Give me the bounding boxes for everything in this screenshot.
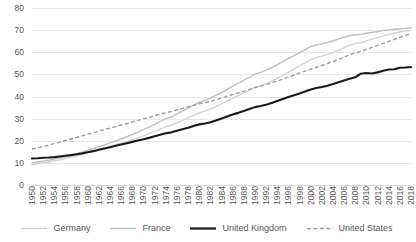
y-axis-tick-label: 80 <box>15 4 24 13</box>
y-axis-tick-label: 40 <box>15 92 24 101</box>
x-axis-tick-label: 1960 <box>84 186 93 205</box>
x-axis-tick-label: 1984 <box>218 186 227 205</box>
x-axis-tick-label: 1982 <box>206 186 215 205</box>
x-axis-tick-label: 1956 <box>61 186 70 205</box>
y-axis-tick-label: 10 <box>15 159 24 168</box>
x-axis-tick-label: 2016 <box>396 186 405 205</box>
x-axis-tick-label: 2010 <box>362 186 371 205</box>
legend-label-uk: United Kingdom <box>222 224 286 233</box>
plot-area <box>32 8 411 185</box>
x-axis-tick-label: 1990 <box>251 186 260 205</box>
legend-swatch-us <box>307 224 333 233</box>
x-axis-tick-label: 2006 <box>340 186 349 205</box>
x-axis-tick-label: 1966 <box>117 186 126 205</box>
x-axis-tick-label: 1954 <box>50 186 59 205</box>
series-line-france <box>32 28 411 163</box>
x-axis-tick-label: 1976 <box>173 186 182 205</box>
legend-item-france[interactable]: France <box>110 224 170 233</box>
series-line-united-states <box>32 34 411 150</box>
legend-label-france: France <box>142 224 170 233</box>
x-axis-tick-label: 1978 <box>184 186 193 205</box>
x-axis-tick-label: 1986 <box>229 186 238 205</box>
x-axis-tick-label: 2004 <box>329 186 338 205</box>
x-axis-tick-label: 1968 <box>128 186 137 205</box>
x-axis-tick-label: 1958 <box>73 186 82 205</box>
legend-item-germany[interactable]: Germany <box>21 224 90 233</box>
x-axis-tick-label: 2000 <box>307 186 316 205</box>
legend-item-uk[interactable]: United Kingdom <box>190 224 286 233</box>
x-axis-labels: 1950195219541956195819601962196419661968… <box>32 186 411 216</box>
legend-item-us[interactable]: United States <box>307 224 393 233</box>
y-axis-tick-label: 70 <box>15 26 24 35</box>
x-axis-tick-label: 1996 <box>284 186 293 205</box>
series-line-united-kingdom <box>32 67 411 158</box>
y-axis-tick-label: 30 <box>15 114 24 123</box>
x-axis-tick-label: 1980 <box>195 186 204 205</box>
series-line-germany <box>32 30 411 164</box>
x-axis-tick-label: 1964 <box>106 186 115 205</box>
x-axis-tick-label: 1994 <box>273 186 282 205</box>
y-axis-tick-label: 0 <box>19 181 24 190</box>
y-axis-labels: 01020304050607080 <box>0 8 28 185</box>
x-axis-tick-label: 2014 <box>385 186 394 205</box>
x-axis-tick-label: 2012 <box>374 186 383 205</box>
x-axis-tick-label: 1952 <box>39 186 48 205</box>
legend-label-germany: Germany <box>53 224 90 233</box>
legend-swatch-uk <box>190 224 216 233</box>
x-axis-tick-label: 1972 <box>151 186 160 205</box>
x-axis-tick-label: 1950 <box>28 186 37 205</box>
y-axis-tick-label: 60 <box>15 48 24 57</box>
x-axis-tick-label: 1974 <box>162 186 171 205</box>
x-axis-tick-label: 1988 <box>240 186 249 205</box>
legend-label-us: United States <box>339 224 393 233</box>
series-layer <box>32 8 411 185</box>
y-axis-tick-label: 50 <box>15 70 24 79</box>
x-axis-tick-label: 2002 <box>318 186 327 205</box>
x-axis-tick-label: 1970 <box>139 186 148 205</box>
legend-swatch-germany <box>21 224 47 233</box>
x-axis-tick-label: 2018 <box>407 186 416 205</box>
chart-legend: GermanyFranceUnited KingdomUnited States <box>0 219 414 237</box>
x-axis-tick-label: 1962 <box>95 186 104 205</box>
legend-swatch-france <box>110 224 136 233</box>
x-axis-tick-label: 1992 <box>262 186 271 205</box>
x-axis-tick-label: 1998 <box>296 186 305 205</box>
x-axis-tick-label: 2008 <box>351 186 360 205</box>
y-axis-tick-label: 20 <box>15 137 24 146</box>
